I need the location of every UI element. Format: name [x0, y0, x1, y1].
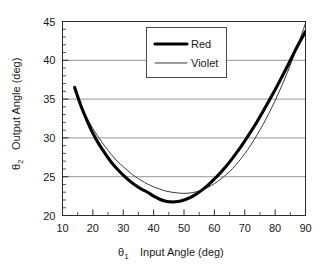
y-tick-label-20: 20	[43, 210, 55, 222]
y-tick-label-35: 35	[43, 93, 55, 105]
legend-box	[147, 28, 227, 78]
x-axis-title-text: Input Angle (deg)	[140, 246, 224, 258]
legend-label-violet: Violet	[191, 57, 218, 69]
x-tick-label-70: 70	[239, 222, 251, 234]
y-tick-label-25: 25	[43, 171, 55, 183]
x-tick-label-60: 60	[208, 222, 220, 234]
x-tick-label-30: 30	[117, 222, 129, 234]
chart-legend: Red Violet	[147, 28, 227, 78]
line-chart: 102030405060708090 202530354045 Red Viol…	[0, 0, 323, 273]
y-tick-label-45: 45	[43, 16, 55, 28]
x-tick-label-50: 50	[178, 222, 190, 234]
chart-figure: 102030405060708090 202530354045 Red Viol…	[0, 0, 323, 273]
x-axis-title-subscript: 1	[124, 252, 129, 261]
x-tick-label-90: 90	[299, 222, 311, 234]
x-tick-label-80: 80	[269, 222, 281, 234]
x-tick-label-40: 40	[148, 222, 160, 234]
x-tick-label-10: 10	[56, 222, 68, 234]
y-axis-title-text: Output Angle (deg)	[10, 58, 22, 150]
y-tick-label-40: 40	[43, 54, 55, 66]
legend-label-red: Red	[191, 38, 211, 50]
x-axis-tick-labels: 102030405060708090	[56, 222, 311, 234]
y-axis-title-subscript: 2	[16, 159, 25, 164]
x-tick-label-20: 20	[87, 222, 99, 234]
y-tick-label-30: 30	[43, 132, 55, 144]
